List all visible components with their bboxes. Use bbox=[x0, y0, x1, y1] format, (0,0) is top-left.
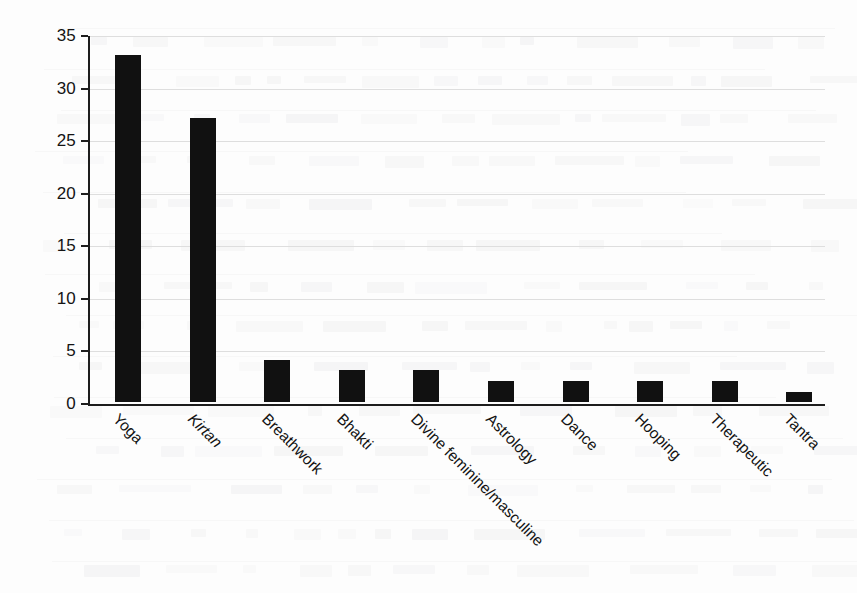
x-axis-category-label: Tantra bbox=[781, 410, 824, 453]
y-axis-tick-label: 20 bbox=[57, 184, 76, 204]
y-axis-tick-label: 30 bbox=[57, 79, 76, 99]
bar bbox=[637, 381, 663, 402]
x-axis-category-label: Dance bbox=[557, 410, 601, 454]
x-axis-category-label: Therapeutic bbox=[706, 410, 777, 481]
y-axis-tick bbox=[81, 35, 88, 37]
bar bbox=[488, 381, 514, 402]
x-axis-category-label: Bhakti bbox=[333, 410, 376, 453]
y-axis-tick bbox=[81, 298, 88, 300]
y-axis-tick-label: 15 bbox=[57, 236, 76, 256]
y-axis-line bbox=[88, 36, 90, 405]
y-axis-tick-label: 25 bbox=[57, 131, 76, 151]
x-axis-category-label: Divine feminine/masculine bbox=[408, 410, 548, 550]
chart-figure: Number of offerings 05101520253035 YogaK… bbox=[0, 0, 857, 593]
y-axis-tick bbox=[81, 88, 88, 90]
x-axis-category-label: Kirtan bbox=[184, 410, 225, 451]
y-axis-tick-label: 10 bbox=[57, 289, 76, 309]
bar bbox=[786, 392, 812, 403]
bar bbox=[264, 360, 290, 402]
y-axis-tick-label: 35 bbox=[57, 26, 76, 46]
x-axis-category-label: Hooping bbox=[631, 410, 685, 464]
x-axis-category-label: Yoga bbox=[109, 410, 146, 447]
bar bbox=[712, 381, 738, 402]
y-axis-title: Number of offerings bbox=[16, 0, 40, 60]
y-axis-tick-label: 5 bbox=[66, 341, 76, 361]
gridline bbox=[90, 89, 825, 90]
y-axis-tick bbox=[81, 193, 88, 195]
bar bbox=[339, 370, 365, 402]
x-axis-line bbox=[88, 404, 825, 406]
bar bbox=[413, 370, 439, 402]
bar bbox=[115, 55, 141, 402]
gridline bbox=[90, 36, 825, 37]
bar bbox=[190, 118, 216, 402]
y-axis-tick bbox=[81, 403, 88, 405]
bar bbox=[563, 381, 589, 402]
x-axis-category-label: Breathwork bbox=[258, 410, 326, 478]
y-axis-tick-label: 0 bbox=[66, 394, 76, 414]
y-axis-tick bbox=[81, 140, 88, 142]
x-axis-category-label: Astrology bbox=[482, 410, 540, 468]
y-axis-tick bbox=[81, 245, 88, 247]
y-axis-tick bbox=[81, 350, 88, 352]
plot-area: 05101520253035 YogaKirtanBreathworkBhakt… bbox=[88, 36, 825, 404]
